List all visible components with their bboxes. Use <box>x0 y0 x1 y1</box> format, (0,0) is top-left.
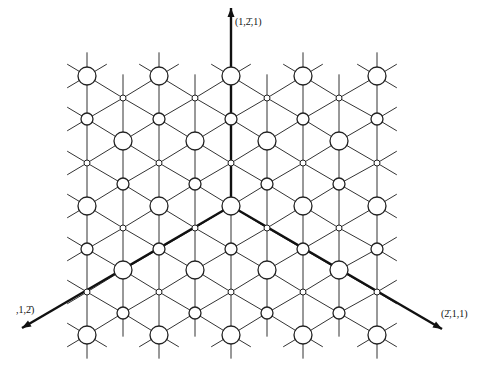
lattice-node-small <box>192 225 198 231</box>
lattice-node-small <box>300 289 306 295</box>
lattice-node-large <box>222 67 240 85</box>
lattice-node-medium <box>225 243 237 255</box>
lattice-node-small <box>336 95 342 101</box>
lattice-node-small <box>156 289 162 295</box>
lattice-node-small <box>374 289 380 295</box>
lattice-node-large <box>258 261 276 279</box>
lattice-node-medium <box>333 178 345 190</box>
lattice-node-large <box>186 132 204 150</box>
lattice-node-medium <box>371 113 383 125</box>
lattice-node-small <box>84 160 90 166</box>
lattice-node-medium <box>81 243 93 255</box>
lattice-node-medium <box>189 307 201 319</box>
lattice-node-medium <box>297 243 309 255</box>
lattice-node-large <box>150 326 168 344</box>
lattice-node-small <box>120 95 126 101</box>
lattice-node-large <box>150 67 168 85</box>
lattice-node-small <box>374 160 380 166</box>
lattice-node-medium <box>117 178 129 190</box>
lattice-node-large <box>78 67 96 85</box>
lattice-node-large <box>368 67 386 85</box>
lattice-node-large <box>368 197 386 215</box>
lattice-node-large <box>330 132 348 150</box>
lattice-node-large <box>78 197 96 215</box>
lattice-node-small <box>156 160 162 166</box>
axis-label-lower-left: ,1,2̄) <box>16 304 34 316</box>
lattice-node-medium <box>371 243 383 255</box>
lattice-node-large <box>150 197 168 215</box>
lattice-node-large <box>368 326 386 344</box>
lattice-node-small <box>84 289 90 295</box>
lattice-node-small <box>300 160 306 166</box>
lattice-node-large <box>114 132 132 150</box>
lattice-node-small <box>264 95 270 101</box>
lattice-node-large <box>258 132 276 150</box>
lattice-node-small <box>120 225 126 231</box>
lattice-node-medium <box>117 307 129 319</box>
lattice-diagram: (1,2̄,1) ,1,2̄) (2̄,1,1) <box>0 0 483 369</box>
crystal-axes <box>22 8 442 329</box>
lattice-node-small <box>228 289 234 295</box>
lattice-node-large <box>222 197 240 215</box>
lattice-node-medium <box>333 307 345 319</box>
lattice-node-medium <box>81 113 93 125</box>
lattice-node-medium <box>225 113 237 125</box>
lattice-node-medium <box>153 113 165 125</box>
arrowhead-icon <box>228 8 235 17</box>
lattice-node-large <box>222 326 240 344</box>
lattice-node-medium <box>261 307 273 319</box>
lattice-node-large <box>294 197 312 215</box>
lattice-node-large <box>78 326 96 344</box>
lattice-node-small <box>192 95 198 101</box>
arrowhead-icon <box>432 321 442 329</box>
axis-labels: (1,2̄,1) ,1,2̄) (2̄,1,1) <box>16 16 468 320</box>
lattice-node-large <box>294 67 312 85</box>
lattice-node-small <box>264 225 270 231</box>
arrowhead-icon <box>22 320 32 328</box>
axis-label-up: (1,2̄,1) <box>235 16 262 28</box>
lattice-node-medium <box>297 113 309 125</box>
lattice-node-medium <box>189 178 201 190</box>
lattice-node-small <box>336 225 342 231</box>
lattice-node-medium <box>153 243 165 255</box>
lattice-node-large <box>330 261 348 279</box>
lattice-node-large <box>294 326 312 344</box>
axis-label-lower-right: (2̄,1,1) <box>441 308 468 320</box>
lattice-node-large <box>186 261 204 279</box>
lattice-node-small <box>228 160 234 166</box>
lattice-node-medium <box>261 178 273 190</box>
lattice-node-large <box>114 261 132 279</box>
